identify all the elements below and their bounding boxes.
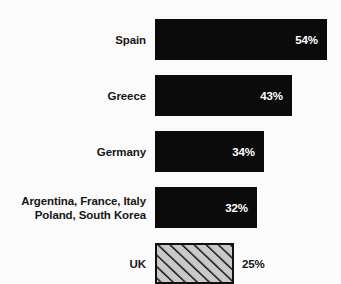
- bar-value-germany: 34%: [232, 146, 264, 158]
- category-label-germany: Germany: [0, 145, 155, 159]
- bar-value-spain: 54%: [295, 34, 327, 46]
- chart-row: Argentina, France, Italy Poland, South K…: [0, 187, 341, 228]
- bar-value-greece: 43%: [260, 90, 292, 102]
- bar-value-uk: 25%: [242, 258, 265, 270]
- diagonal-hatch-pattern-icon: [157, 245, 232, 282]
- chart-row: UK 25%: [0, 243, 341, 284]
- bar-uk[interactable]: [155, 243, 234, 284]
- category-label-greece: Greece: [0, 89, 155, 103]
- chart-row: Germany 34%: [0, 131, 341, 172]
- bar-germany[interactable]: 34%: [155, 131, 264, 172]
- chart-row: Spain 54%: [0, 19, 341, 60]
- bar-greece[interactable]: 43%: [155, 75, 292, 116]
- bar-track: 25%: [155, 243, 341, 284]
- bar-spain[interactable]: 54%: [155, 19, 327, 60]
- bar-track: 54%: [155, 19, 341, 60]
- bar-track: 34%: [155, 131, 341, 172]
- category-label-argentina-group: Argentina, France, Italy Poland, South K…: [0, 194, 155, 222]
- chart-row: Greece 43%: [0, 75, 341, 116]
- bar-value-argentina-group: 32%: [225, 202, 257, 214]
- category-label-spain: Spain: [0, 33, 155, 47]
- bar-track: 43%: [155, 75, 341, 116]
- bar-argentina-group[interactable]: 32%: [155, 187, 257, 228]
- bar-track: 32%: [155, 187, 341, 228]
- category-label-uk: UK: [0, 257, 155, 271]
- bar-chart: Spain 54% Greece 43% Germany 34% Argenti…: [0, 0, 341, 284]
